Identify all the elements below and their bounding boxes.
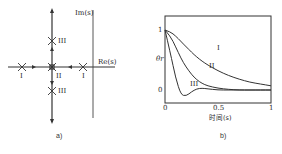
- xtick-0: 0: [163, 104, 167, 112]
- curve-label-i: I: [217, 44, 220, 52]
- arrow-down-icon: [50, 119, 54, 124]
- pole-label-left-i: I: [20, 72, 23, 80]
- step-response-panel: 1 0 θr 0 0.5 1 时间(s) I II III b): [141, 0, 282, 154]
- panel-b-caption: b): [220, 132, 226, 140]
- real-axis-label: Re(s): [98, 58, 116, 66]
- imag-axis-label: Im(s): [75, 9, 93, 17]
- curve-iii: [165, 30, 271, 96]
- pole-label-right-i: I: [82, 72, 85, 80]
- pole-label-lower-iii: III: [58, 87, 66, 95]
- root-locus-panel: Im(s) Re(s) I I II III III a): [0, 0, 141, 154]
- arrow-up-small-icon: [50, 47, 54, 51]
- ytick-0: 0: [158, 86, 162, 94]
- panel-a-caption: a): [56, 132, 62, 140]
- step-response-plot: [141, 0, 282, 154]
- curve-label-iii: III: [190, 80, 198, 88]
- origin-marker: [49, 64, 55, 70]
- arrow-up-icon: [50, 8, 54, 13]
- curve-label-ii: II: [209, 62, 215, 70]
- arrow-left-icon: [68, 65, 72, 69]
- arrow-right-icon: [32, 65, 36, 69]
- ytick-1: 1: [158, 26, 162, 34]
- pole-label-origin-ii: II: [56, 72, 62, 80]
- curve-ii: [165, 30, 271, 90]
- y-axis-label: θr: [156, 55, 164, 63]
- xtick-1: 1: [269, 104, 273, 112]
- x-axis-label: 时间(s): [209, 114, 231, 122]
- pole-label-upper-iii: III: [58, 37, 66, 45]
- xtick-0-5: 0.5: [213, 104, 224, 112]
- arrow-down-small-icon: [50, 81, 54, 85]
